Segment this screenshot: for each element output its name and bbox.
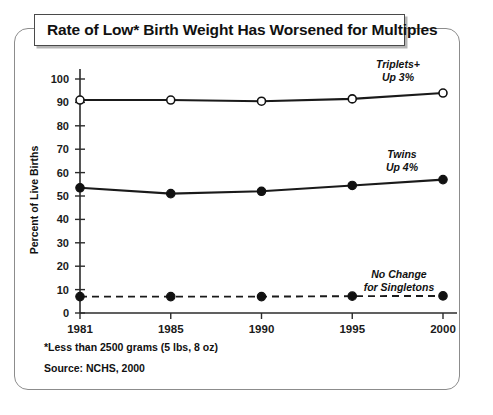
x-axis: 19811985199019952000 <box>67 313 457 335</box>
y-axis-title: Percent of Live Births <box>28 146 40 255</box>
y-tick-label: 30 <box>57 237 69 249</box>
data-point-marker <box>167 189 175 197</box>
footnote-source: Source: NCHS, 2000 <box>44 362 145 374</box>
y-tick-label: 100 <box>51 73 69 85</box>
x-tick-label: 1990 <box>249 323 275 335</box>
data-point-marker <box>258 97 266 105</box>
footnote-asterisk: *Less than 2500 grams (5 lbs, 8 oz) <box>44 341 218 353</box>
x-tick-label: 2000 <box>430 323 456 335</box>
y-tick-label: 40 <box>57 213 69 225</box>
x-tick-label: 1981 <box>67 323 93 335</box>
y-axis: 0102030405060708090100 <box>51 69 85 319</box>
data-point-marker <box>348 292 356 300</box>
data-point-marker <box>439 89 447 97</box>
x-tick-label: 1995 <box>339 323 365 335</box>
series-annotation-line: for Singletons <box>364 281 435 293</box>
y-tick-label: 80 <box>57 120 69 132</box>
data-point-marker <box>76 96 84 104</box>
x-tick-label: 1985 <box>158 323 184 335</box>
data-point-marker <box>348 95 356 103</box>
y-tick-label: 50 <box>57 190 69 202</box>
series-annotation-line: Twins <box>387 148 417 160</box>
series-annotation-line: Up 4% <box>386 161 419 173</box>
y-tick-label: 60 <box>57 167 69 179</box>
data-point-marker <box>76 184 84 192</box>
series-annotation-line: Triplets+ <box>376 58 420 70</box>
y-tick-label: 10 <box>57 284 69 296</box>
y-tick-label: 0 <box>63 307 69 319</box>
y-tick-label: 20 <box>57 260 69 272</box>
data-point-marker <box>257 187 265 195</box>
data-point-marker <box>257 292 265 300</box>
data-point-marker <box>439 292 447 300</box>
y-tick-label: 70 <box>57 143 69 155</box>
series-annotation-line: No Change <box>371 268 427 280</box>
data-point-marker <box>439 175 447 183</box>
series-annotation-line: Up 3% <box>382 71 415 83</box>
data-point-marker <box>167 96 175 104</box>
data-point-marker <box>76 292 84 300</box>
data-point-marker <box>167 292 175 300</box>
y-tick-label: 90 <box>57 96 69 108</box>
data-point-marker <box>348 181 356 189</box>
